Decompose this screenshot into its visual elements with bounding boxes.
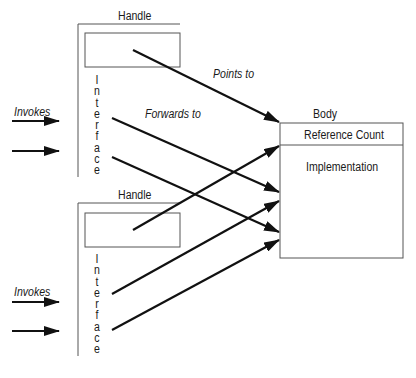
forwards-arrow-1a — [112, 118, 279, 192]
body-label: Body — [313, 107, 337, 121]
diagram-canvas — [0, 0, 416, 378]
reference-count-label: Reference Count — [304, 128, 384, 142]
forwards-arrow-2b — [112, 240, 279, 330]
handle-1-pointer-box — [85, 33, 180, 67]
points-to-label: Points to — [213, 67, 254, 81]
body-box — [280, 123, 403, 258]
implementation-label: Implementation — [306, 160, 378, 174]
invokes-label-top: Invokes — [14, 105, 50, 119]
interface-label-2: Interface — [91, 254, 103, 356]
handle-2-label: Handle — [118, 188, 151, 202]
handle-1-label: Handle — [118, 9, 151, 23]
interface-label-1: Interface — [91, 75, 103, 177]
invokes-label-bottom: Invokes — [14, 285, 50, 299]
forwards-to-label: Forwards to — [145, 107, 201, 121]
handle-2-pointer-box — [85, 213, 180, 247]
